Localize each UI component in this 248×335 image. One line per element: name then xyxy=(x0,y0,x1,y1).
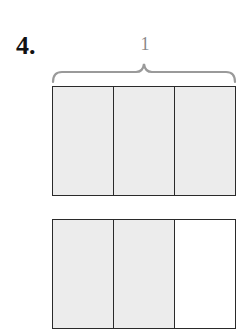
bar-cell-shaded xyxy=(53,87,114,195)
bar-cell-shaded xyxy=(53,220,114,328)
problem-number: 4. xyxy=(16,33,36,59)
bar-cell-shaded xyxy=(114,87,175,195)
curly-brace-icon xyxy=(50,62,240,84)
bar-cell-shaded xyxy=(114,220,175,328)
whole-label: 1 xyxy=(139,35,151,53)
fraction-bar xyxy=(52,219,236,329)
bar-cell-shaded xyxy=(175,87,235,195)
whole-bar xyxy=(52,86,236,196)
bar-cell-unshaded xyxy=(175,220,235,328)
